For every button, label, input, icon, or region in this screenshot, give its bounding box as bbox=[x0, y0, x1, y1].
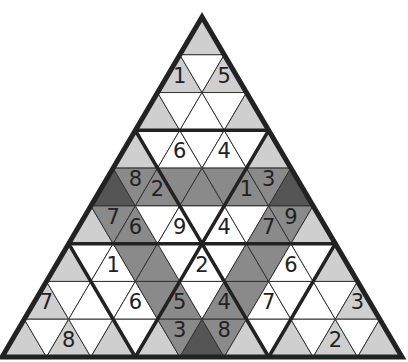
cell-value-r7-c4: 6 bbox=[129, 290, 142, 314]
cell-value-r5-c1: 7 bbox=[106, 205, 119, 229]
triangular-sudoku-board: 156482137694791267654738382 bbox=[0, 0, 408, 362]
cell-value-r7-c10: 7 bbox=[262, 290, 275, 314]
cell-value-r6-c10: 6 bbox=[284, 253, 297, 277]
cell-value-r8-c9: 8 bbox=[218, 318, 231, 342]
cell-value-r3-c4: 4 bbox=[218, 139, 231, 163]
cell-r0-c0[interactable] bbox=[180, 17, 224, 55]
cell-value-r7-c6: 5 bbox=[173, 290, 186, 314]
cell-value-r4-c7: 3 bbox=[262, 167, 275, 191]
cell-value-r4-c6: 1 bbox=[240, 177, 253, 201]
cell-value-r5-c6: 4 bbox=[218, 215, 231, 239]
cell-value-r4-c1: 8 bbox=[129, 167, 142, 191]
cell-value-r8-c14: 2 bbox=[329, 328, 342, 352]
cell-value-r4-c2: 2 bbox=[151, 177, 164, 201]
cell-value-r3-c2: 6 bbox=[173, 139, 186, 163]
cell-value-r5-c8: 7 bbox=[262, 215, 275, 239]
cell-value-r5-c4: 9 bbox=[173, 215, 186, 239]
cell-value-r8-c7: 3 bbox=[173, 318, 186, 342]
cell-layer: 156482137694791267654738382 bbox=[2, 17, 402, 357]
cell-value-r7-c8: 4 bbox=[218, 290, 231, 314]
cell-value-r5-c2: 6 bbox=[129, 215, 142, 239]
cell-value-r5-c9: 9 bbox=[284, 205, 297, 229]
cell-value-r8-c2: 8 bbox=[62, 328, 75, 352]
cell-value-r6-c2: 1 bbox=[106, 253, 119, 277]
cell-value-r6-c6: 2 bbox=[195, 253, 208, 277]
